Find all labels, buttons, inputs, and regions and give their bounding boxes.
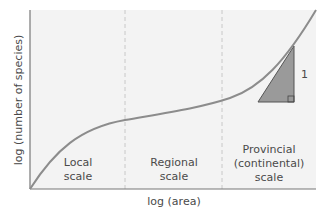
region-local-label-2: scale — [64, 170, 93, 183]
region-regional-label-2: scale — [160, 170, 189, 183]
region-provincial-label-2: (continental) — [234, 157, 305, 170]
region-provincial-label-1: Provincial — [243, 143, 296, 156]
x-axis-label: log (area) — [147, 195, 200, 208]
region-local-label-1: Local — [64, 156, 93, 169]
species-area-chart: 1 Local scale Regional scale Provincial … — [0, 0, 333, 216]
slope-label: 1 — [301, 68, 308, 81]
region-regional-label-1: Regional — [150, 156, 197, 169]
region-provincial-label-3: scale — [255, 171, 284, 184]
y-axis-label: log (number of species) — [12, 35, 25, 165]
